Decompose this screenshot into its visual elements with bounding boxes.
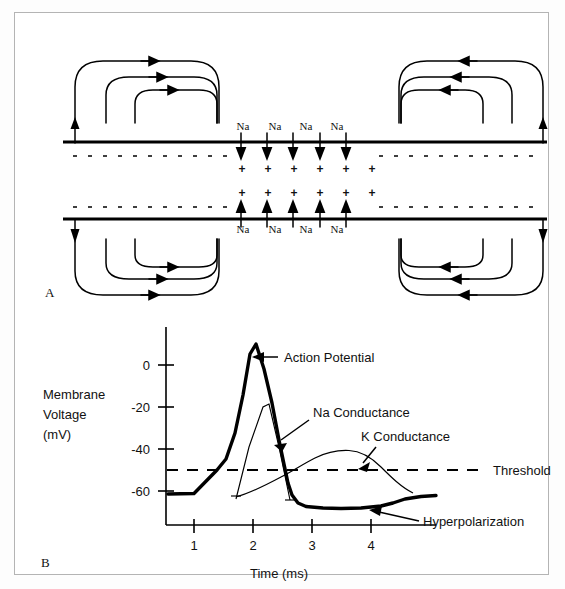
plus-sign: + xyxy=(238,186,245,200)
action-potential-chart: 0 -20 -40 -60 1 2 3 4 xyxy=(31,307,564,587)
y-axis-title-line: Voltage xyxy=(43,407,86,422)
y-axis-title-line: (mV) xyxy=(43,427,71,442)
x-axis-ticks: 1 2 3 4 xyxy=(190,519,374,553)
x-tick-label: 1 xyxy=(190,538,197,553)
hyperpolarization-label: Hyperpolarization xyxy=(423,514,524,529)
positive-charge-row-lower: + + + + + + xyxy=(238,186,375,200)
plus-sign: + xyxy=(342,186,349,200)
x-tick-label: 4 xyxy=(367,538,374,553)
threshold-label: Threshold xyxy=(493,463,551,478)
na-label: Na xyxy=(300,120,313,132)
y-axis-ticks: 0 -20 -40 -60 xyxy=(131,358,174,499)
action-potential-curve xyxy=(168,344,436,509)
panel-b-label: B xyxy=(41,555,50,571)
positive-charge-row-upper: + + + + + + xyxy=(238,162,375,176)
action-potential-annotation: Action Potential xyxy=(252,350,374,365)
k-conductance-label: K Conductance xyxy=(361,429,450,444)
y-axis-title: Membrane Voltage (mV) xyxy=(43,387,105,442)
plus-sign: + xyxy=(264,186,271,200)
action-potential-label: Action Potential xyxy=(284,350,374,365)
na-label: Na xyxy=(300,223,313,235)
figure-frame: Na Na Na Na xyxy=(14,12,549,575)
y-tick-label: -40 xyxy=(131,442,150,457)
y-tick-label: -20 xyxy=(131,400,150,415)
x-tick-label: 2 xyxy=(249,538,256,553)
current-loop-lower-right xyxy=(399,239,543,295)
plus-sign: + xyxy=(368,162,375,176)
plus-sign: + xyxy=(368,186,375,200)
na-influx-arrows-upper xyxy=(236,133,352,161)
arrowhead-icon xyxy=(274,443,287,452)
plus-sign: + xyxy=(264,162,271,176)
na-label: Na xyxy=(331,120,344,132)
na-labels-lower: Na Na Na Na xyxy=(237,223,344,235)
x-tick-label: 3 xyxy=(308,538,315,553)
plus-sign: + xyxy=(290,186,297,200)
plus-sign: + xyxy=(342,162,349,176)
na-label: Na xyxy=(269,223,282,235)
y-axis-title-line: Membrane xyxy=(43,387,105,402)
figure-container: Na Na Na Na xyxy=(0,0,565,589)
k-conductance-annotation: K Conductance xyxy=(358,429,450,472)
panel-b: 0 -20 -40 -60 1 2 3 4 xyxy=(31,307,564,587)
plus-sign: + xyxy=(316,186,323,200)
x-axis-title: Time (ms) xyxy=(250,566,308,581)
current-loop-upper-left xyxy=(75,61,219,123)
na-labels-upper: Na Na Na Na xyxy=(237,120,344,132)
y-tick-label: 0 xyxy=(143,358,150,373)
panel-a-label: A xyxy=(45,285,55,301)
na-label: Na xyxy=(237,223,250,235)
k-conductance-curve xyxy=(236,450,413,497)
current-loop-upper-right xyxy=(399,61,543,123)
plus-sign: + xyxy=(238,162,245,176)
na-conductance-label: Na Conductance xyxy=(313,405,410,420)
na-label: Na xyxy=(269,120,282,132)
current-loop-lower-left xyxy=(75,239,219,295)
na-label: Na xyxy=(237,120,250,132)
plus-sign: + xyxy=(316,162,323,176)
na-label: Na xyxy=(331,223,344,235)
y-tick-label: -60 xyxy=(131,484,150,499)
panel-a: Na Na Na Na xyxy=(31,27,564,305)
plus-sign: + xyxy=(290,162,297,176)
panel-a-diagram: Na Na Na Na xyxy=(31,27,564,305)
